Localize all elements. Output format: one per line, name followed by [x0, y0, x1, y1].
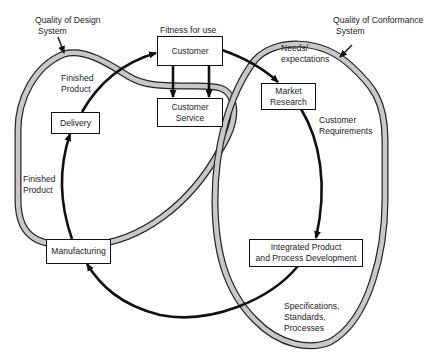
arrow-manufacturing-to-delivery — [62, 134, 72, 239]
label-line: Specifications, — [284, 301, 339, 312]
label-line: Market — [270, 86, 307, 97]
delivery-node: Delivery — [51, 112, 100, 134]
customer-label: Customer — [171, 46, 208, 57]
finished-product-lower-label: Finished Product — [23, 174, 55, 196]
quality-of-design-label: Quality of Design System — [35, 15, 100, 37]
label-line: Finished — [23, 174, 55, 185]
label-line: Standards, — [284, 312, 339, 323]
customer-service-node: Customer Service — [157, 98, 223, 127]
label-line: Requirements — [319, 126, 373, 137]
arrow-ipd-to-manufacturing — [87, 264, 298, 317]
finished-product-upper-label: Finished Product — [61, 73, 93, 95]
market-research-node: Market Research — [261, 83, 316, 110]
customer-requirements-label: Customer Requirements — [319, 115, 373, 137]
delivery-label: Delivery — [60, 118, 91, 129]
manufacturing-node: Manufacturing — [46, 239, 111, 264]
label-line: Product — [61, 84, 93, 95]
needs-expectations-label: Needs/ expectations — [281, 43, 329, 65]
label-line: Needs/ — [281, 43, 329, 54]
label-line: Processes — [284, 323, 339, 334]
label-line: System — [35, 26, 100, 37]
quality-of-design-loop — [18, 53, 234, 246]
label-line: Quality of Design — [35, 15, 100, 26]
quality-of-conformance-label: Quality of Conformance System — [333, 15, 423, 37]
specifications-label: Specifications, Standards, Processes — [284, 301, 339, 334]
diagram-canvas — [0, 0, 446, 358]
label-line: Service — [171, 113, 208, 124]
fitness-for-use-caption: Fitness for use — [160, 25, 216, 36]
ipd-node: Integrated Product and Process Developme… — [249, 239, 363, 267]
label-line: Quality of Conformance — [333, 15, 423, 26]
manufacturing-label: Manufacturing — [51, 246, 105, 257]
label-line: Finished — [61, 73, 93, 84]
label-line: Customer — [171, 102, 208, 113]
label-line: expectations — [281, 54, 329, 65]
label-line: System — [333, 26, 423, 37]
label-line: Research — [270, 97, 307, 108]
label-line: Integrated Product — [256, 242, 357, 253]
label-line: Product — [23, 185, 55, 196]
label-line: Customer — [319, 115, 373, 126]
customer-node: Customer — [157, 36, 223, 66]
label-line: and Process Development — [256, 253, 357, 264]
